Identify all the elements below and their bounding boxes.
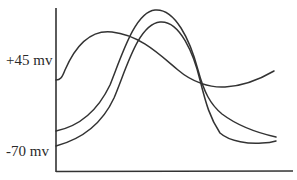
label-minus-70-mv: -70 mv: [6, 144, 49, 159]
tall-curve: [56, 10, 276, 137]
label-plus-45-mv: +45 mv: [6, 53, 52, 68]
waveform-figure: +45 mv -70 mv: [0, 0, 297, 180]
broad-curve: [56, 32, 274, 87]
x-axis: [56, 171, 293, 172]
